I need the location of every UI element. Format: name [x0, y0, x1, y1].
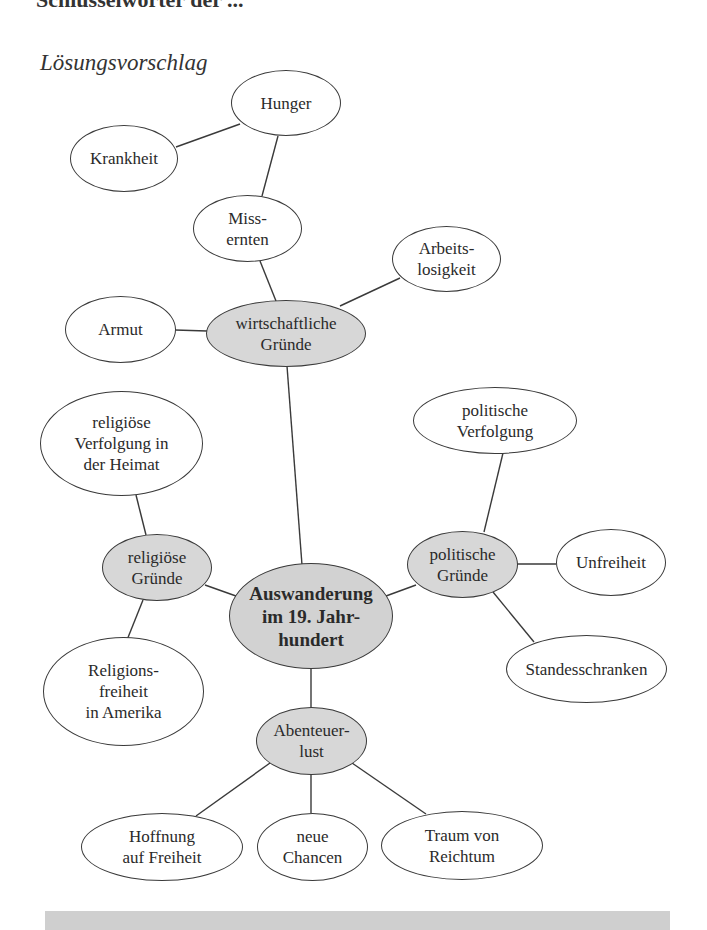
edge-religion-center [205, 585, 236, 596]
node-label: religiöse Gründe [128, 547, 187, 589]
edge-abenteuer-reichtum [352, 763, 426, 814]
node-armut: Armut [65, 296, 176, 363]
node-center-auswanderung: Auswanderung im 19. Jahr- hundert [229, 563, 393, 669]
node-label: Miss- ernten [226, 208, 268, 250]
node-label: politische Verfolgung [457, 400, 533, 442]
node-unfreiheit: Unfreiheit [556, 529, 666, 596]
node-religioese-gruende: religiöse Gründe [102, 534, 212, 601]
edge-armut-wirtschaft [175, 330, 207, 331]
edge-polverfolgung-politik [484, 453, 503, 532]
node-traum-von-reichtum: Traum von Reichtum [381, 811, 543, 880]
node-label: politische Gründe [429, 544, 495, 586]
edge-wirtschaft-center [287, 366, 302, 565]
node-label: Unfreiheit [576, 552, 646, 573]
edge-wirtschaft-arbeitslosigkeit [340, 278, 400, 306]
node-missernten: Miss- ernten [193, 195, 302, 262]
node-hoffnung-auf-freiheit: Hoffnung auf Freiheit [81, 813, 243, 881]
node-krankheit: Krankheit [70, 125, 178, 192]
node-arbeitslosigkeit: Arbeits- losigkeit [392, 226, 501, 292]
node-label: wirtschaftliche Gründe [235, 313, 336, 355]
node-religionsfreiheit: Religions- freiheit in Amerika [43, 637, 204, 746]
node-politische-gruende: politische Gründe [407, 531, 518, 598]
footer-gray-bar [45, 911, 670, 930]
edge-relverfolgung-religion [136, 495, 146, 535]
edge-politik-standesschranken [493, 592, 534, 642]
node-wirtschaftliche-gruende: wirtschaftliche Gründe [206, 300, 366, 367]
node-label: neue Chancen [283, 826, 342, 868]
node-label: Arbeits- losigkeit [417, 238, 476, 280]
node-label: Hunger [261, 93, 312, 114]
edge-krankheit-hunger [176, 124, 240, 147]
center-label: Auswanderung im 19. Jahr- hundert [249, 582, 373, 651]
edge-abenteuer-hoffnung [196, 763, 270, 816]
node-label: Traum von Reichtum [425, 825, 499, 867]
edge-religion-religionsfreiheit [127, 600, 143, 640]
node-standesschranken: Standesschranken [506, 635, 667, 703]
node-neue-chancen: neue Chancen [257, 813, 368, 881]
node-politische-verfolgung: politische Verfolgung [413, 387, 577, 454]
node-label: Standesschranken [526, 659, 648, 680]
node-label: religiöse Verfolgung in der Heimat [75, 412, 169, 475]
node-label: Armut [98, 319, 142, 340]
node-abenteuerlust: Abenteuer- lust [256, 707, 367, 775]
node-label: Krankheit [90, 148, 158, 169]
node-label: Abenteuer- lust [273, 720, 349, 762]
node-hunger: Hunger [231, 70, 341, 136]
node-label: Religions- freiheit in Amerika [85, 660, 161, 723]
edge-missernten-wirtschaft [260, 261, 276, 301]
node-religioese-verfolgung: religiöse Verfolgung in der Heimat [40, 391, 203, 496]
node-label: Hoffnung auf Freiheit [123, 826, 202, 868]
edge-hunger-missernten [262, 136, 278, 196]
edge-center-politik [386, 585, 416, 596]
